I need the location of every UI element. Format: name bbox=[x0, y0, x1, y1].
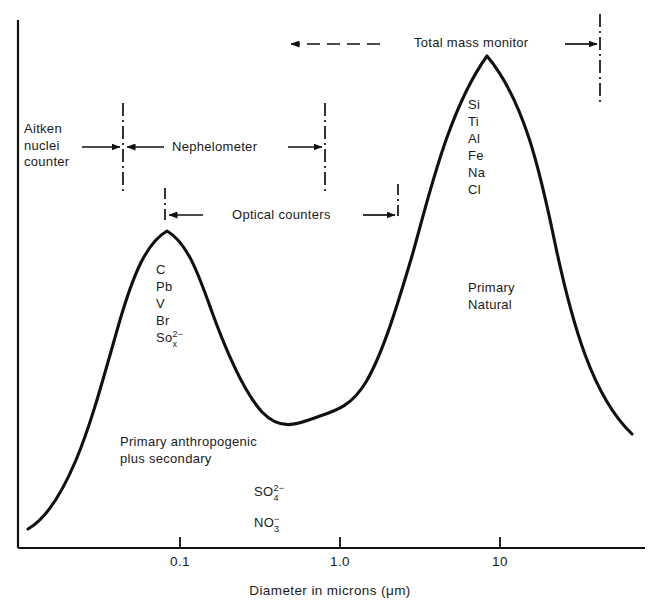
nitrate-base: NO bbox=[254, 515, 274, 530]
coarse-origin-line-1: Primary bbox=[468, 280, 515, 295]
species-pb: Pb bbox=[156, 279, 173, 294]
x-tick-label-1: 1.0 bbox=[330, 554, 350, 569]
species-ti: Ti bbox=[468, 114, 479, 129]
sox-superscript: 2− bbox=[173, 330, 184, 339]
sulfate-ion-label: SO2−4 bbox=[254, 484, 273, 501]
coarse-mode-species-list: SiTiAlFeNaCl bbox=[468, 96, 485, 198]
species-cl: Cl bbox=[468, 182, 481, 197]
nephelometer-label: Nephelometer bbox=[172, 139, 257, 156]
distribution-curve bbox=[28, 56, 632, 529]
fine-mode-origin-label: Primary anthropogenicplus secondary bbox=[120, 434, 257, 467]
species-v: V bbox=[156, 296, 165, 311]
fine-origin-line-2: plus secondary bbox=[120, 451, 212, 466]
aitken-line-3: counter bbox=[24, 154, 69, 169]
species-br: Br bbox=[156, 313, 170, 328]
aitken-nuclei-counter-label: Aitkennucleicounter bbox=[24, 121, 69, 171]
species-fe: Fe bbox=[468, 148, 484, 163]
species-na: Na bbox=[468, 165, 485, 180]
sulfate-subscript: 4 bbox=[273, 494, 278, 503]
aitken-line-1: Aitken bbox=[24, 121, 62, 136]
aitken-line-2: nuclei bbox=[24, 138, 60, 153]
coarse-mode-origin-label: PrimaryNatural bbox=[468, 280, 515, 313]
axes bbox=[18, 20, 645, 548]
chart-canvas bbox=[0, 0, 649, 604]
coarse-origin-line-2: Natural bbox=[468, 297, 512, 312]
fine-mode-species-list: CPbVBrSo2−x bbox=[156, 261, 173, 346]
x-tick-label-0: 0.1 bbox=[170, 554, 190, 569]
aerosol-size-distribution-figure: Aitkennucleicounter Nephelometer Optical… bbox=[0, 0, 649, 604]
species-si: Si bbox=[468, 97, 480, 112]
species-c: C bbox=[156, 262, 166, 277]
nitrate-ion-label: NO−3 bbox=[254, 515, 274, 532]
nitrate-superscript: − bbox=[274, 515, 280, 524]
sox-subscript: x bbox=[173, 340, 178, 349]
total-mass-monitor-label: Total mass monitor bbox=[414, 35, 529, 52]
fine-origin-line-1: Primary anthropogenic bbox=[120, 434, 257, 449]
range-marker-arrows bbox=[82, 44, 597, 215]
sulfate-base: SO bbox=[254, 484, 273, 499]
species-al: Al bbox=[468, 131, 480, 146]
species-sox: So bbox=[156, 330, 173, 345]
x-axis-title: Diameter in microns (μm) bbox=[249, 583, 410, 598]
x-tick-label-2: 10 bbox=[492, 554, 508, 569]
sulfate-superscript: 2− bbox=[273, 484, 284, 493]
nitrate-subscript: 3 bbox=[274, 525, 279, 534]
optical-counters-label: Optical counters bbox=[232, 207, 331, 224]
